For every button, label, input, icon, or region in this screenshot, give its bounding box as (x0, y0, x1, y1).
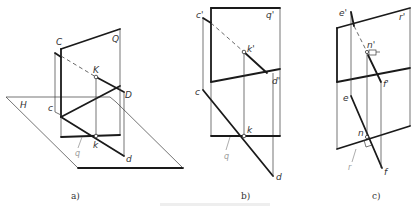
point-k-prime (242, 50, 246, 54)
label-f: f (384, 167, 389, 177)
line-cd-prime-visible (244, 52, 267, 73)
point-n-prime (365, 50, 368, 53)
label-q-upper: Q (112, 34, 119, 44)
label-k-upper: K (93, 65, 100, 75)
label-k-prime: k' (247, 44, 255, 54)
figure-a: C Q K D H c k d q a) (6, 29, 183, 201)
leader-q (226, 137, 230, 150)
label-d-prime: d' (272, 76, 280, 86)
figure-c: e' r' n' f' e n f r c) (337, 8, 410, 201)
label-c: c (195, 87, 200, 97)
label-n: n (358, 128, 364, 138)
label-c-lower: c (48, 103, 53, 113)
leader-r (352, 149, 356, 162)
label-k-lower: k (93, 140, 99, 150)
line-cd-hidden (61, 56, 96, 77)
label-r: r (348, 163, 352, 172)
point-k (242, 134, 246, 138)
plane-r-mid-edge (337, 68, 410, 82)
plane-q-bottom-edge (211, 69, 280, 82)
point-k-lower (94, 134, 98, 138)
line-cd-prime-hidden (211, 23, 244, 52)
label-r-prime: r' (399, 12, 405, 22)
line-ef (351, 96, 382, 168)
plane-q-bottom-edge (61, 86, 120, 117)
label-q-prime: q' (266, 10, 274, 20)
trace-q (61, 135, 120, 137)
line-en-prime-hidden (354, 26, 367, 52)
label-e-prime: e' (339, 8, 347, 18)
label-d-lower: d (126, 154, 132, 164)
label-n-prime: n' (367, 40, 375, 50)
label-d: d (276, 172, 282, 182)
label-c-upper: C (56, 37, 63, 47)
figure-b: c' q' k' d' c k d q b) (195, 8, 282, 201)
point-k-upper (94, 75, 98, 79)
diagram-canvas: C Q K D H c k d q a) c' q' (0, 0, 414, 208)
label-k: k (247, 125, 253, 135)
figure-caption-faint (160, 203, 270, 206)
caption-c: c) (372, 191, 381, 201)
label-e: e (343, 93, 349, 103)
leader-q (78, 137, 82, 148)
plane-h-right-edge (110, 97, 183, 168)
label-c-prime: c' (196, 10, 203, 20)
caption-a: a) (71, 191, 80, 201)
label-d-upper: D (125, 90, 132, 100)
line-cd (203, 90, 273, 176)
caption-b: b) (241, 191, 250, 201)
label-q-lower: q (75, 149, 80, 158)
label-h: H (20, 100, 27, 110)
right-angle-n-prime-icon (369, 50, 376, 55)
point-n (365, 135, 368, 138)
label-f-prime: f' (383, 79, 389, 89)
label-q: q (224, 152, 229, 161)
c-prime-stub (203, 18, 211, 23)
trace-r (337, 126, 410, 149)
line-nf-prime (368, 55, 381, 82)
